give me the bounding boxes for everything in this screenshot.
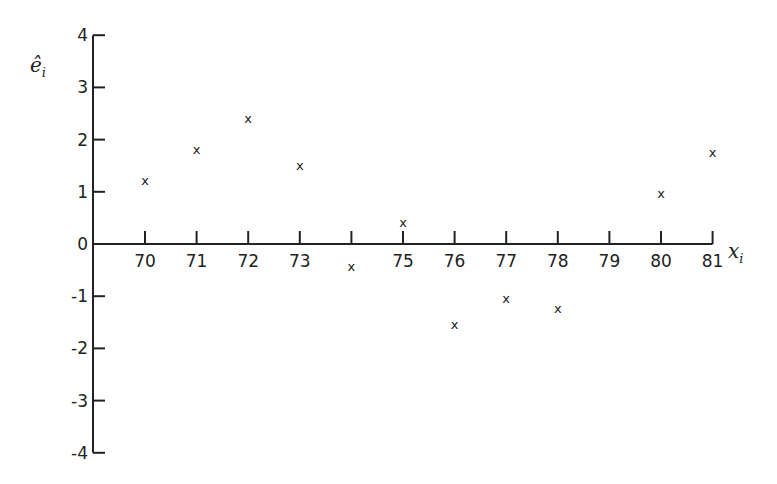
data-points: xxxxxxxxxxx [141, 111, 717, 332]
x-tick-label: 78 [547, 251, 569, 271]
x-tick-label: 76 [444, 251, 466, 271]
data-point-marker: x [244, 111, 252, 126]
y-tick-label: 4 [77, 25, 88, 45]
y-tick-label: -4 [71, 443, 88, 463]
x-axis-ticks: 7071727375767778798081 [134, 231, 723, 271]
x-tick-label: 81 [702, 251, 724, 271]
y-tick-label: 3 [77, 77, 88, 97]
x-tick-label: 77 [495, 251, 517, 271]
x-tick-label: 73 [289, 251, 311, 271]
x-tick-label: 80 [650, 251, 672, 271]
y-tick-label: -2 [71, 338, 88, 358]
x-tick-label: 79 [599, 251, 621, 271]
x-tick-label: 72 [237, 251, 259, 271]
y-tick-label: 2 [77, 130, 88, 150]
x-tick-label: 75 [392, 251, 414, 271]
data-point-marker: x [451, 317, 459, 332]
y-tick-label: -1 [71, 286, 88, 306]
residual-scatter-plot: 43210-1-2-3-4 7071727375767778798081 xxx… [0, 0, 777, 484]
y-tick-label: 0 [77, 234, 88, 254]
data-point-marker: x [348, 259, 356, 274]
x-axis-label: xi [728, 239, 743, 266]
x-tick-label: 71 [186, 251, 208, 271]
data-point-marker: x [709, 145, 717, 160]
data-point-marker: x [193, 142, 201, 157]
y-tick-label: 1 [77, 182, 88, 202]
data-point-marker: x [502, 291, 510, 306]
x-tick-label: 70 [134, 251, 156, 271]
data-point-marker: x [657, 186, 665, 201]
data-point-marker: x [554, 301, 562, 316]
data-point-marker: x [399, 215, 407, 230]
data-point-marker: x [296, 158, 304, 173]
y-tick-label: -3 [71, 391, 88, 411]
y-axis-label: êi [30, 53, 46, 80]
data-point-marker: x [141, 173, 149, 188]
